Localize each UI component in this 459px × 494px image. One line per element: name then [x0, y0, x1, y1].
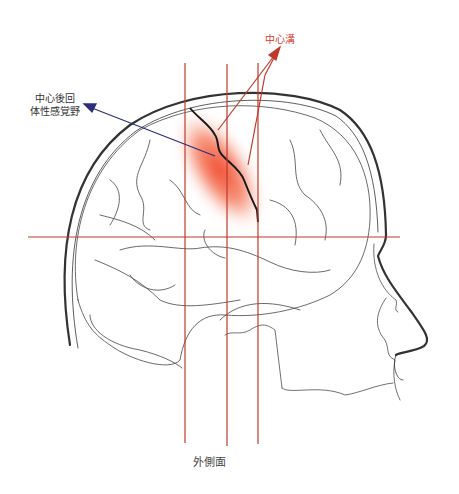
head-outline: [65, 93, 428, 400]
arrowhead-icon: [269, 47, 280, 60]
arrowhead-icon: [84, 104, 96, 112]
postcentral-gyrus-label-line2: 体性感覚野: [30, 105, 80, 118]
view-caption: 外側面: [193, 456, 226, 469]
central-sulcus-label: 中心溝: [265, 33, 295, 46]
postcentral-gyrus-label-line1: 中心後回: [30, 92, 80, 105]
postcentral-highlight: [156, 94, 284, 247]
brain-lateral-diagram: [0, 0, 459, 494]
postcentral-gyrus-label: 中心後回 体性感覚野: [30, 92, 80, 118]
